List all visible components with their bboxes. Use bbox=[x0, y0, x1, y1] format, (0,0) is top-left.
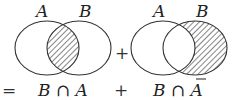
equation-row: = B ∩ A + B ∩ A bbox=[2, 79, 206, 100]
set-label-b-left: B bbox=[78, 1, 92, 21]
set-label-a-left: A bbox=[34, 1, 48, 21]
equals-sign: = bbox=[2, 80, 16, 100]
set-a-complement: A bbox=[189, 80, 203, 100]
venn-diagram-right: A B bbox=[131, 1, 227, 75]
venn-diagram-left: A B bbox=[15, 1, 111, 75]
venn-equation-figure: A B + A B = B ∩ A + B ∩ A bbox=[0, 0, 238, 100]
plus-sign-equation: + bbox=[114, 80, 128, 100]
term-b-intersect-not-a: B ∩ A bbox=[152, 80, 203, 100]
set-label-a-right: A bbox=[151, 1, 165, 21]
set-label-b-right: B bbox=[195, 1, 209, 21]
plus-sign-diagrams: + bbox=[115, 43, 129, 63]
term-b-intersect-a: B ∩ A bbox=[37, 80, 88, 100]
